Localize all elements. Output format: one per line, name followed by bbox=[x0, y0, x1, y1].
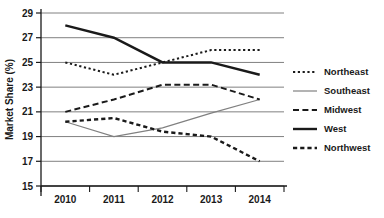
y-tick-label: 23 bbox=[22, 82, 34, 93]
legend-swatch-northwest bbox=[292, 142, 318, 154]
y-tick-label: 29 bbox=[22, 8, 34, 19]
x-tick-label: 2011 bbox=[103, 194, 125, 205]
legend-label-southeast: Southeast bbox=[324, 85, 370, 97]
y-tick-label: 27 bbox=[22, 32, 34, 43]
legend-item-northwest: Northwest bbox=[292, 138, 384, 157]
legend-swatch-southeast bbox=[292, 85, 318, 97]
x-tick-label: 2010 bbox=[54, 194, 77, 205]
y-tick-label: 15 bbox=[22, 181, 34, 192]
legend-item-northeast: Northeast bbox=[292, 62, 384, 81]
y-tick-label: 25 bbox=[22, 57, 34, 68]
legend-label-west: West bbox=[324, 123, 347, 135]
legend-item-southeast: Southeast bbox=[292, 81, 384, 100]
x-tick-label: 2014 bbox=[249, 194, 272, 205]
x-tick-label: 2012 bbox=[151, 194, 174, 205]
line-chart: 151719212325272920102011201220132014Mark… bbox=[0, 0, 384, 218]
legend-item-west: West bbox=[292, 119, 384, 138]
legend-swatch-west bbox=[292, 123, 318, 135]
legend-item-midwest: Midwest bbox=[292, 100, 384, 119]
y-tick-label: 21 bbox=[22, 106, 34, 117]
y-axis-title: Market Share (%) bbox=[4, 59, 15, 140]
legend-swatch-midwest bbox=[292, 104, 318, 116]
chart-legend: Northeast Southeast Midwest West Northwe… bbox=[292, 62, 384, 157]
y-tick-label: 17 bbox=[22, 156, 34, 167]
legend-label-midwest: Midwest bbox=[324, 104, 361, 116]
y-tick-label: 19 bbox=[22, 131, 34, 142]
series-line-northwest bbox=[65, 118, 259, 161]
x-tick-label: 2013 bbox=[200, 194, 223, 205]
legend-swatch-northeast bbox=[292, 66, 318, 78]
legend-label-northwest: Northwest bbox=[324, 142, 370, 154]
legend-label-northeast: Northeast bbox=[324, 66, 368, 78]
